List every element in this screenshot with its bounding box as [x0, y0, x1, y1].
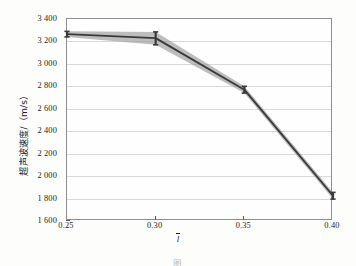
error-band: [67, 31, 333, 199]
x-tick-mark: [155, 216, 156, 220]
y-axis-title: 超声波速度/（m/s）: [16, 58, 30, 208]
error-bar-markers: [64, 31, 335, 199]
y-tick-label: 1 600: [37, 216, 57, 225]
x-tick-label: 0.25: [58, 221, 73, 230]
figure-container: 1 6001 8002 0002 2002 4002 6002 8003 000…: [0, 0, 356, 266]
data-line: [67, 34, 333, 196]
x-axis-title-symbol: l: [176, 233, 181, 244]
x-tick-label: 0.40: [324, 221, 339, 230]
y-tick-label: 1 800: [37, 193, 57, 202]
y-tick-label: 2 000: [37, 171, 57, 180]
y-tick-label: 3 400: [37, 14, 57, 23]
plot-area: [66, 18, 332, 220]
x-axis-title: l: [0, 234, 356, 244]
data-series-layer: [67, 19, 333, 221]
y-tick-label: 2 800: [37, 81, 57, 90]
y-tick-label: 2 400: [37, 126, 57, 135]
figure-caption: 图: [0, 257, 356, 266]
y-tick-label: 2 200: [37, 148, 57, 157]
x-tick-label: 0.35: [236, 221, 251, 230]
y-tick-label: 3 200: [37, 36, 57, 45]
x-tick-mark: [243, 216, 244, 220]
y-tick-label: 2 600: [37, 103, 57, 112]
x-tick-label: 0.30: [147, 221, 162, 230]
x-axis-ticks: 0.250.300.350.40: [66, 221, 332, 235]
y-tick-label: 3 000: [37, 58, 57, 67]
y-axis-ticks: 1 6001 8002 0002 2002 4002 6002 8003 000…: [0, 18, 64, 220]
